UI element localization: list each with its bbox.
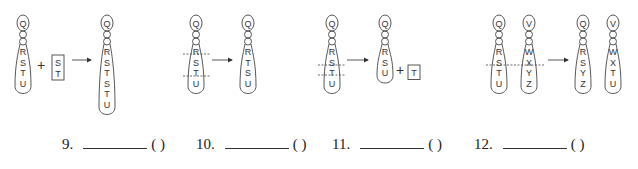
gene-label: U [245,79,252,89]
gene-label: R [580,47,587,57]
gene-label: S [580,58,586,68]
gene-label: T [104,68,110,78]
centromere-bead [580,31,587,38]
gene-label: T [55,69,61,79]
gene-label: R [245,47,252,57]
gene-label: R [382,47,389,57]
answer-blank-10[interactable] [225,134,289,149]
gene-label: Y [526,68,532,78]
question-9-label: 9.( ) [62,134,165,153]
gene-label: T [245,58,251,68]
gene-label: V [526,19,532,29]
centromere-bead [104,38,111,45]
gene-label: Z [580,79,586,89]
gene-label: T [411,68,417,78]
gene-label: S [55,58,61,68]
gene-label: S [496,58,502,68]
centromere-bead [526,31,533,38]
centromere-bead [20,38,27,45]
gene-label: S [104,79,110,89]
centromere-bead [496,38,503,45]
gene-label: Q [192,19,199,29]
answer-blank-12[interactable] [503,134,567,149]
gene-label: Z [526,79,532,89]
gene-label: Q [328,19,335,29]
gene-label: U [329,79,336,89]
centromere-bead [329,31,336,38]
gene-label: S [193,58,199,68]
gene-label: S [329,58,335,68]
answer-blank-11[interactable] [360,134,424,149]
gene-label: U [496,79,503,89]
gene-label: S [20,58,26,68]
gene-label: U [382,68,389,78]
gene-label: R [193,47,200,57]
gene-label: T [496,68,502,78]
answer-paren-12[interactable]: ( ) [571,136,585,153]
centromere-bead [245,31,252,38]
answer-paren-9[interactable]: ( ) [151,136,165,153]
answer-paren-11[interactable]: ( ) [428,136,442,153]
gene-label: R [104,47,111,57]
centromere-bead [580,38,587,45]
centromere-bead [382,31,389,38]
chromosome-diagram: QRSTU+STQRSTSTUQRSTUQRTSUQRSTUQRSU+TQRST… [0,0,638,130]
gene-label: T [20,68,26,78]
centromere-bead [104,31,111,38]
question-number: 9. [62,136,73,153]
plus-icon: + [396,62,404,78]
gene-label: S [245,68,251,78]
gene-label: V [610,19,616,29]
question-11-label: 11.( ) [332,134,442,153]
plus-icon: + [37,57,45,73]
gene-label: S [382,58,388,68]
gene-label: U [193,79,200,89]
question-number: 12. [474,136,493,153]
answer-paren-10[interactable]: ( ) [293,136,307,153]
gene-label: R [20,47,27,57]
question-number: 10. [196,136,215,153]
centromere-bead [496,31,503,38]
centromere-bead [382,38,389,45]
gene-label: T [329,68,335,78]
gene-label: U [610,79,617,89]
gene-label: R [329,47,336,57]
gene-label: T [104,89,110,99]
gene-label: Q [244,19,251,29]
gene-label: R [496,47,503,57]
gene-label: Y [580,68,586,78]
centromere-bead [20,31,27,38]
question-number: 11. [332,136,350,153]
gene-label: X [610,58,616,68]
answer-blank-9[interactable] [83,134,147,149]
gene-label: U [20,79,27,89]
centromere-bead [329,38,336,45]
centromere-bead [193,31,200,38]
gene-label: W [525,47,534,57]
centromere-bead [245,38,252,45]
question-10-label: 10.( ) [196,134,307,153]
gene-label: X [526,58,532,68]
centromere-bead [526,38,533,45]
gene-label: S [104,58,110,68]
gene-label: Q [19,19,26,29]
gene-label: U [104,100,111,110]
question-12-label: 12.( ) [474,134,585,153]
gene-label: Q [579,19,586,29]
gene-label: Q [381,19,388,29]
gene-label: T [193,68,199,78]
centromere-bead [610,38,617,45]
centromere-bead [193,38,200,45]
gene-label: T [610,68,616,78]
gene-label: Q [103,19,110,29]
gene-label: Q [495,19,502,29]
centromere-bead [610,31,617,38]
gene-label: W [609,47,618,57]
